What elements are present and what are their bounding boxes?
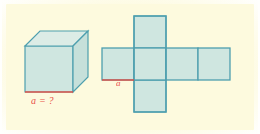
net-edge-label: a [116,78,121,88]
net-square-row-1 [102,48,134,80]
cube-front-face [25,46,73,92]
cube-drawing [25,31,88,92]
net-drawing [102,16,230,112]
net-square-bottom [134,80,166,112]
net-square-row-3 [166,48,198,80]
net-square-row-4 [198,48,230,80]
cube-edge-label: a = ? [31,95,54,106]
geometry-figure: a = ? a [0,0,260,134]
net-square-top [134,16,166,48]
net-square-row-2 [134,48,166,80]
figure-artwork [0,0,260,134]
